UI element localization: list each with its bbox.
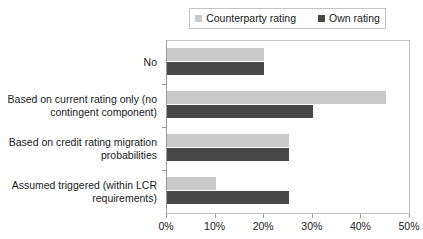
bar-counterparty-rating [167,134,289,147]
bar-chart: Counterparty rating Own rating NoBased o… [0,0,423,239]
x-axis-tick-label: 30% [301,220,322,232]
x-axis-tick-label: 40% [350,220,371,232]
y-axis-tick [162,84,166,85]
x-axis-tick [409,214,410,218]
legend-label-own-rating: Own rating [329,13,380,24]
legend-swatch-own-rating [318,15,325,22]
bar-own-rating [167,62,264,75]
bar-own-rating [167,105,313,118]
x-axis-tick [215,214,216,218]
y-axis-tick [162,127,166,128]
x-axis-tick [312,214,313,218]
legend-item-own-rating: Own rating [318,13,380,24]
y-axis-category: Assumed triggered (within LCR requiremen… [0,170,162,213]
y-axis-category-label: Based on current rating only (no conting… [8,93,162,119]
bar-group [167,170,410,213]
bar-counterparty-rating [167,177,216,190]
y-axis-labels: NoBased on current rating only (no conti… [0,41,162,213]
bars-layer [167,41,410,213]
legend-swatch-counterparty-rating [195,15,202,22]
x-axis-tick-label: 50% [398,220,419,232]
legend-label-counterparty-rating: Counterparty rating [206,13,296,24]
y-axis-category: No [0,41,162,84]
x-axis-tick [360,214,361,218]
x-axis-tick [263,214,264,218]
bar-counterparty-rating [167,48,264,61]
x-axis: 0%10%20%30%40%50% [166,214,411,239]
bar-own-rating [167,191,289,204]
x-axis-tick [166,214,167,218]
bar-counterparty-rating [167,91,386,104]
bar-group [167,127,410,170]
y-axis-category-label: Based on credit rating migration probabi… [9,136,162,162]
y-axis-category-label: Assumed triggered (within LCR requiremen… [12,179,162,205]
y-axis-category: Based on credit rating migration probabi… [0,127,162,170]
bar-group [167,41,410,84]
y-axis-category-label: No [144,56,162,69]
legend-item-counterparty-rating: Counterparty rating [195,13,296,24]
x-axis-tick-label: 20% [253,220,274,232]
x-axis-tick-label: 0% [158,220,173,232]
y-axis-category: Based on current rating only (no conting… [0,84,162,127]
bar-group [167,84,410,127]
x-axis-tick-label: 10% [204,220,225,232]
chart-legend: Counterparty rating Own rating [189,8,386,29]
bar-own-rating [167,148,289,161]
y-axis-tick [162,170,166,171]
